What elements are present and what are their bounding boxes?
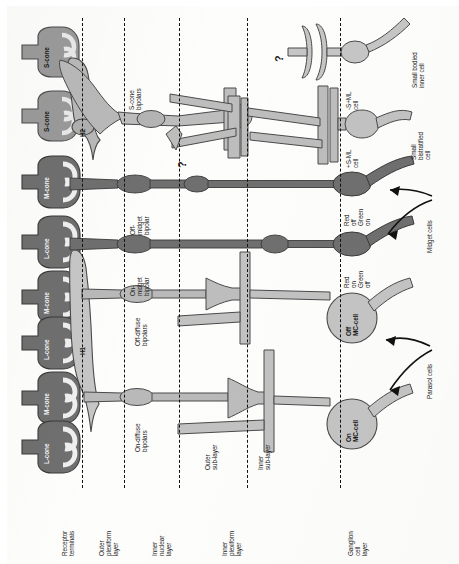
bipolar-label-off-diffuse-bipolars: Off-diffuse bipolars (135, 318, 149, 346)
boundary-inner-nuclear (179, 18, 180, 488)
horizontal-cell-label-h2: H2 (80, 129, 87, 137)
boundary-outer-plexiform (124, 18, 125, 488)
boundary-inner-plexiform (247, 18, 248, 488)
boundary-ganglion-cell (340, 18, 341, 488)
cone-label-5: M-cone (44, 292, 51, 314)
boundary-receptor-terminals (82, 18, 83, 488)
bipolar-label-off-midget-bipolar: Off- midget bipolar (130, 216, 151, 235)
cone-label-1: S-cone (44, 47, 51, 68)
cone-label-8: L-cone (44, 444, 51, 464)
ganglion-label-minus-s-plus-ml-cell: -S+ML cell (346, 91, 360, 110)
off-diffuse-bipolar-cell (82, 252, 250, 344)
sublayer-label-outer-sub-layer: Outer sub-layer (205, 445, 219, 470)
off-mc-cell (250, 278, 413, 343)
cone-7-m-cone (22, 372, 80, 424)
bipolar-label-on-midget-bipolar: On- midget bipolar (130, 277, 151, 296)
layer-label-ganglion-cell-layer: Ganglion cell layer (348, 531, 369, 556)
ganglion-label-red-off-green-on: Red off Green on (344, 209, 372, 226)
left-margin (0, 0, 7, 564)
on-midget-bipolar-cell (70, 235, 340, 253)
small-bodied-inner-cell (288, 18, 410, 80)
bipolar-label-on-diffuse-bipolars: On-diffuse bipolars (135, 424, 149, 452)
retina-circuitry-diagram: Receptor terminals Outer plexiform layer… (0, 0, 459, 564)
question-mark-lower: ? (177, 161, 189, 168)
question-mark-upper: ? (274, 55, 286, 62)
layer-label-inner-nuclear-layer: Inner nuclear layer (152, 536, 173, 556)
ganglion-label-on-mc-cell: On MC-cell (346, 420, 360, 442)
ganglion-label-off-mc-cell: Off MC-cell (346, 314, 360, 336)
ganglion-label-small-bistratified-cell: Small bistratified cell (411, 132, 432, 160)
ganglion-label-plus-s-minus-ml-cell: +S-ML cell (346, 149, 360, 168)
cone-label-3: M-cone (44, 177, 51, 199)
cone-label-7: M-cone (44, 393, 51, 415)
off-midget-bipolar-cell (70, 175, 340, 193)
diagram-canvas (0, 0, 459, 564)
horizontal-cell-label-h1: H1 (80, 347, 87, 355)
layer-label-receptor-terminals: Receptor terminals (62, 531, 76, 556)
cone-8-l-cone (22, 421, 80, 473)
top-margin (0, 0, 459, 6)
bipolar-label-s-cone-bipolars: S-cone bipolars (129, 88, 143, 110)
ganglion-label-midget-cells: Midget cells (427, 220, 434, 253)
small-bistratified-cell (166, 86, 412, 164)
cone-label-4: L-cone (44, 239, 51, 259)
layer-label-inner-plexiform-layer: Inner plexiform layer (222, 531, 243, 556)
ganglion-label-parasol-cells: Parasol cells (427, 364, 434, 399)
sublayer-label-inner-sub-layer: Inner sub-layer (258, 445, 272, 470)
cone-label-2: S-cone (44, 111, 51, 132)
cone-label-6: L-cone (44, 340, 51, 360)
layer-label-outer-plexiform-layer: Outer plexiform layer (99, 531, 120, 556)
ganglion-label-small-bodied-inner-cell: Small bodied inner cell (412, 52, 426, 88)
on-mc-cell (274, 384, 413, 449)
ganglion-label-red-on-green-off: Red on Green off (344, 271, 372, 288)
